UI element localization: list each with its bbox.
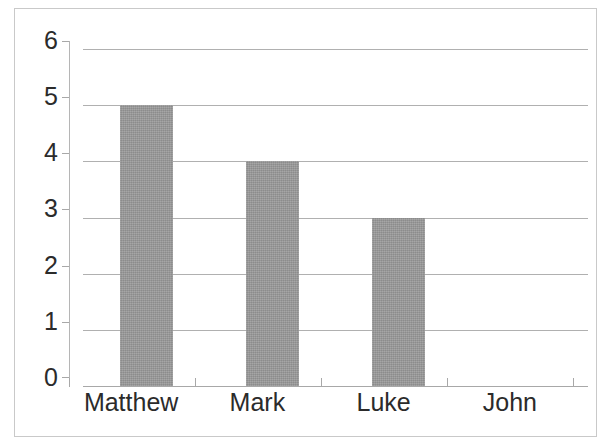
y-tick-2 [62, 266, 69, 267]
y-axis-labels: 6 5 4 3 2 1 0 [14, 0, 58, 448]
y-axis-label-2: 2 [30, 253, 58, 278]
x-tick-boundary-1 [195, 378, 196, 387]
y-axis-label-3: 3 [30, 196, 58, 221]
x-axis-label-matthew: Matthew [68, 389, 194, 429]
x-axis-labels: Matthew Mark Luke John [68, 389, 573, 429]
plot-area [83, 49, 588, 386]
bar-luke [372, 218, 425, 387]
x-axis-label-john: John [447, 389, 573, 429]
y-tick-5 [62, 97, 69, 98]
y-axis-label-4: 4 [30, 140, 58, 165]
gridline-6 [83, 49, 588, 50]
x-tick-boundary-4 [573, 378, 574, 387]
chart-screenshot: 6 5 4 3 2 1 0 Matthew Mark Luke John [0, 0, 607, 448]
x-axis-label-luke: Luke [321, 389, 447, 429]
y-axis-label-6: 6 [30, 28, 58, 53]
chart-frame [14, 8, 597, 437]
bar-matthew [120, 105, 173, 386]
x-tick-boundary-3 [447, 378, 448, 387]
y-axis-label-5: 5 [30, 84, 58, 109]
x-axis-label-mark: Mark [194, 389, 320, 429]
y-axis-line [69, 41, 70, 379]
y-axis-label-0: 0 [30, 365, 58, 390]
gridline-0-baseline [83, 386, 588, 387]
y-tick-0 [62, 377, 69, 378]
x-tick-boundary-0 [69, 378, 70, 387]
bar-mark [246, 161, 299, 386]
y-axis-label-1: 1 [30, 309, 58, 334]
x-tick-boundary-2 [321, 378, 322, 387]
y-tick-3 [62, 209, 69, 210]
y-tick-4 [62, 153, 69, 154]
y-tick-1 [62, 322, 69, 323]
y-tick-6 [62, 41, 69, 42]
